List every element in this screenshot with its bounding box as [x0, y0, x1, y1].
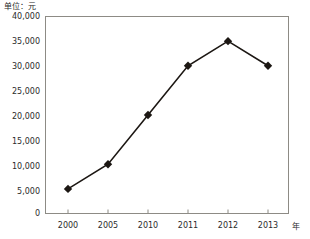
plot-area	[0, 0, 310, 239]
line-chart: 单位：元 40,000 35,000 30,000 25,000 20,000 …	[0, 0, 310, 239]
plot-frame	[46, 17, 289, 214]
